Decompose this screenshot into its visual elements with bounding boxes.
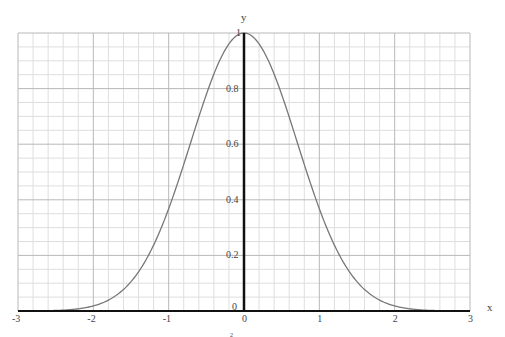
y-tick-label: 1 [236,28,241,38]
y-tick-label: 0.8 [226,84,239,94]
y-tick-label: 0.6 [226,139,239,149]
x-tick-label: 2 [393,314,398,324]
y-tick-0: 0 [232,302,237,312]
plot-area [0,0,505,337]
x-tick-label: 0 [242,314,247,324]
x-tick-label: -3 [12,314,20,324]
x-tick-label: -2 [87,314,95,324]
x-tick-label: -1 [163,314,171,324]
y-tick-label: 0.2 [226,250,239,260]
x-tick-label: 3 [468,314,473,324]
y-tick-label: 0.4 [226,195,239,205]
y-axis-label: y [241,12,247,22]
bottom-annotation: 2 [230,330,233,337]
x-axis-label: x [487,302,493,312]
x-tick-label: 1 [317,314,322,324]
